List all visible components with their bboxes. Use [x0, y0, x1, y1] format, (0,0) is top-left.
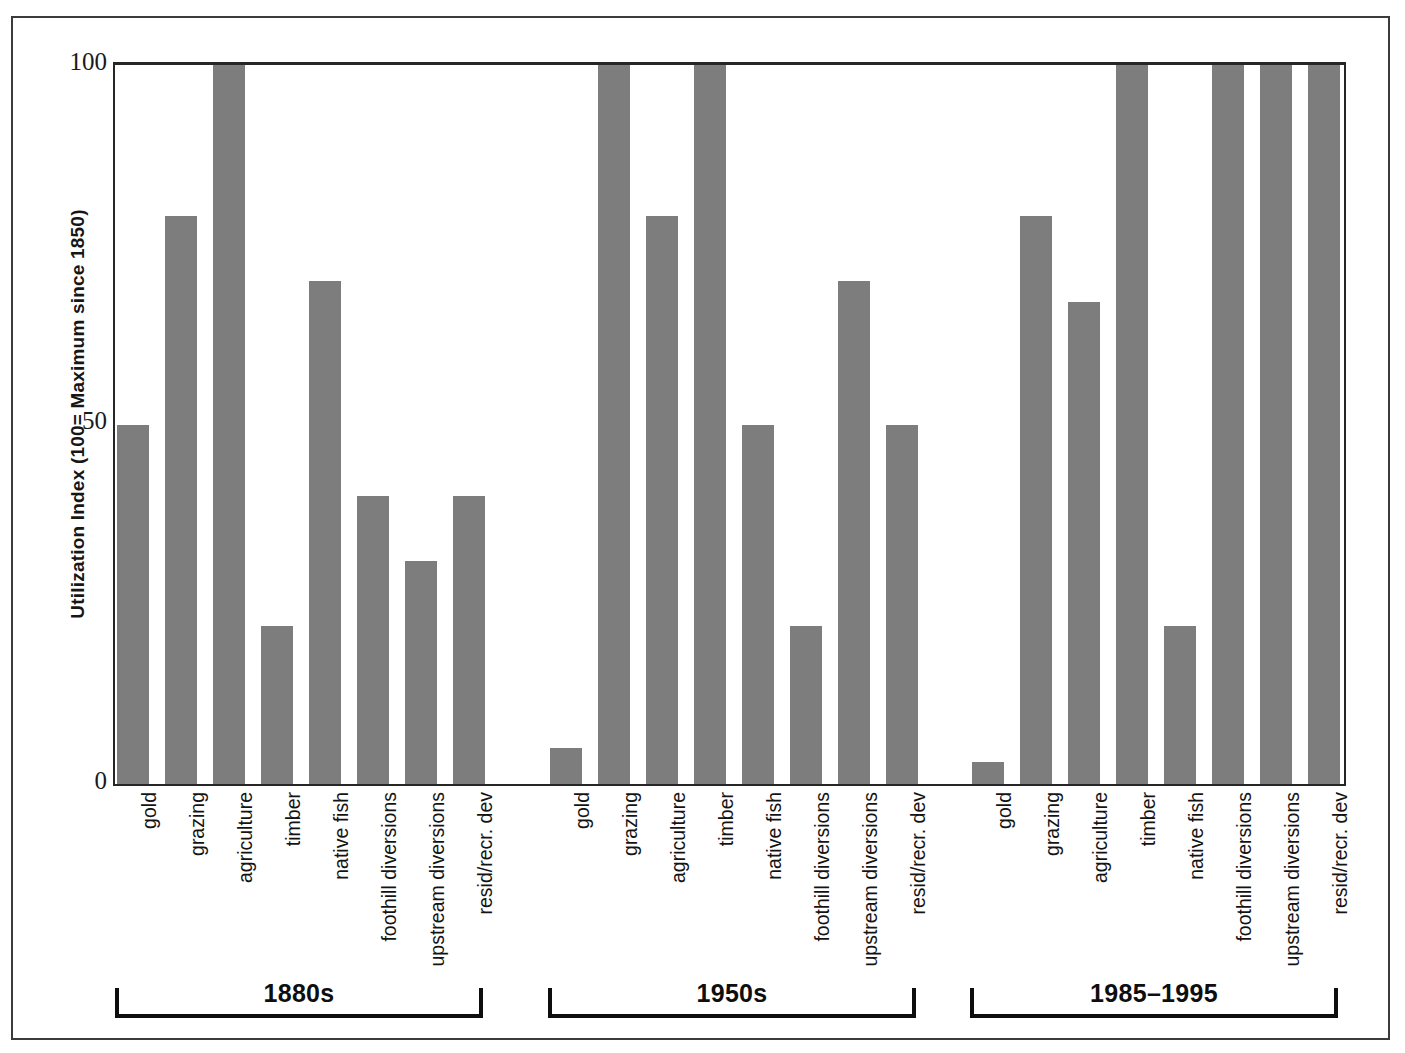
x-axis-label: foothill diversions: [378, 586, 401, 786]
x-axis-label: upstream diversions: [426, 586, 449, 786]
x-axis-label-text: timber: [1137, 786, 1160, 986]
x-axis-label-text: grazing: [619, 786, 642, 986]
x-axis-label: native fish: [763, 586, 786, 786]
x-axis-label: gold: [138, 586, 161, 786]
x-axis-label: timber: [715, 586, 738, 786]
chart-figure: Utilization Index (100= Maximum since 18…: [0, 0, 1405, 1053]
group-bracket-1: 1880s: [115, 966, 483, 1026]
group-bracket-2: 1950s: [548, 966, 916, 1026]
x-axis-label-text: resid/recr. dev: [907, 786, 930, 986]
x-axis-label-text: foothill diversions: [378, 786, 401, 986]
group-label: 1950s: [548, 979, 916, 1008]
x-axis-label-text: resid/recr. dev: [1329, 786, 1352, 986]
x-axis-label-text: native fish: [763, 786, 786, 986]
x-axis-label-text: upstream diversions: [426, 786, 449, 986]
group-label: 1985–1995: [970, 979, 1338, 1008]
y-axis-tick-labels: 100 50 0: [47, 0, 107, 1053]
group-bracket-3: 1985–1995: [970, 966, 1338, 1026]
x-axis-label-text: resid/recr. dev: [474, 786, 497, 986]
x-axis-label-text: grazing: [1041, 786, 1064, 986]
x-axis-label: grazing: [1041, 586, 1064, 786]
group-label: 1880s: [115, 979, 483, 1008]
x-axis-label: foothill diversions: [811, 586, 834, 786]
x-axis-label-text: agriculture: [667, 786, 690, 986]
x-axis-label-text: timber: [715, 786, 738, 986]
x-axis-label-text: upstream diversions: [1281, 786, 1304, 986]
y-tick-label-50: 50: [55, 408, 107, 433]
x-axis-label: timber: [1137, 586, 1160, 786]
x-axis-label: grazing: [619, 586, 642, 786]
x-axis-label-text: gold: [993, 786, 1016, 986]
x-axis-label-text: timber: [282, 786, 305, 986]
x-axis-label: resid/recr. dev: [1329, 586, 1352, 786]
x-axis-label-text: agriculture: [234, 786, 257, 986]
x-axis-label: native fish: [1185, 586, 1208, 786]
x-axis-label-text: gold: [571, 786, 594, 986]
x-axis-label: agriculture: [1089, 586, 1112, 786]
x-axis-label: gold: [571, 586, 594, 786]
x-axis-label: agriculture: [667, 586, 690, 786]
x-axis-label: foothill diversions: [1233, 586, 1256, 786]
x-axis-label-text: grazing: [186, 786, 209, 986]
x-axis-label: upstream diversions: [1281, 586, 1304, 786]
x-axis-label: timber: [282, 586, 305, 786]
x-axis-label-text: native fish: [1185, 786, 1208, 986]
x-axis-label: upstream diversions: [859, 586, 882, 786]
x-axis-label: agriculture: [234, 586, 257, 786]
x-axis-label-text: gold: [138, 786, 161, 986]
y-tick-label-100: 100: [55, 49, 107, 74]
x-axis-label: grazing: [186, 586, 209, 786]
x-axis-category-labels: goldgrazingagriculturetimbernative fishf…: [113, 786, 1342, 961]
x-axis-label-text: foothill diversions: [1233, 786, 1256, 986]
y-tick-label-0: 0: [55, 768, 107, 793]
x-axis-label-text: agriculture: [1089, 786, 1112, 986]
group-brackets: 1880s1950s1985–1995: [113, 966, 1373, 1036]
x-axis-label: resid/recr. dev: [474, 586, 497, 786]
x-axis-label: gold: [993, 586, 1016, 786]
x-axis-label: resid/recr. dev: [907, 586, 930, 786]
x-axis-label-text: native fish: [330, 786, 353, 986]
x-axis-label-text: foothill diversions: [811, 786, 834, 986]
x-axis-label: native fish: [330, 586, 353, 786]
x-axis-label-text: upstream diversions: [859, 786, 882, 986]
